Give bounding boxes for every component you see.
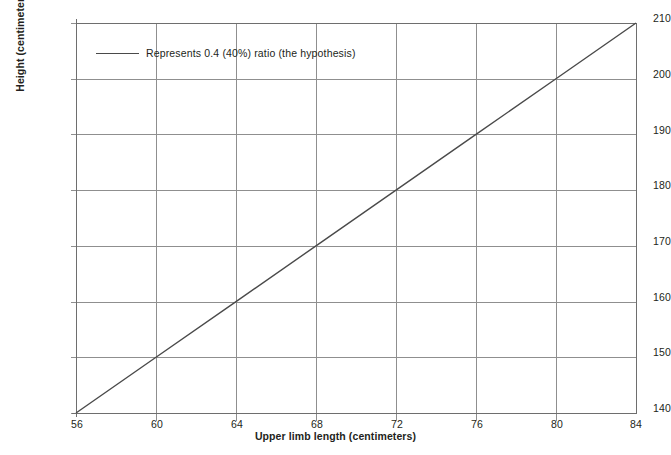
x-axis-title: Upper limb length (centimeters) xyxy=(0,430,671,442)
legend-label-hypothesis: Represents 0.4 (40%) ratio (the hypothes… xyxy=(146,47,356,59)
x-tick-label-68: 68 xyxy=(311,418,323,430)
series-line-hypothesis xyxy=(76,23,636,413)
x-tick-label-64: 64 xyxy=(231,418,243,430)
x-tick-label-76: 76 xyxy=(471,418,483,430)
x-tick-label-80: 80 xyxy=(551,418,563,430)
plot-right-border xyxy=(636,23,637,413)
legend-line-swatch xyxy=(96,53,139,54)
x-tick-label-84: 84 xyxy=(630,418,642,430)
line-chart: Height (centimeters) 140 150 160 170 180… xyxy=(0,0,671,455)
y-axis-title: Height (centimeters) xyxy=(14,0,26,130)
legend: Represents 0.4 (40%) ratio (the hypothes… xyxy=(96,47,356,59)
plot-area xyxy=(76,23,636,413)
x-axis-line xyxy=(72,413,637,414)
x-tick-label-56: 56 xyxy=(71,418,83,430)
series-layer xyxy=(76,23,636,413)
x-tick-label-72: 72 xyxy=(391,418,403,430)
x-tick-label-60: 60 xyxy=(151,418,163,430)
